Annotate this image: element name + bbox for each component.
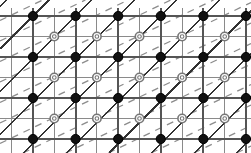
filled-lattice-node bbox=[156, 93, 165, 102]
filled-lattice-node bbox=[28, 52, 37, 61]
filled-lattice-node bbox=[71, 134, 80, 143]
filled-lattice-node bbox=[156, 52, 165, 61]
open-lattice-node bbox=[135, 73, 143, 81]
filled-lattice-node bbox=[241, 134, 250, 143]
open-lattice-node bbox=[93, 32, 101, 40]
open-lattice-node bbox=[178, 32, 186, 40]
open-lattice-node bbox=[50, 73, 58, 81]
open-lattice-node bbox=[93, 114, 101, 122]
open-lattice-node bbox=[178, 114, 186, 122]
filled-lattice-node bbox=[156, 134, 165, 143]
filled-lattice-node bbox=[114, 93, 123, 102]
filled-lattice-node bbox=[71, 52, 80, 61]
open-lattice-node bbox=[50, 32, 58, 40]
filled-lattice-node bbox=[241, 11, 250, 20]
open-lattice-node bbox=[221, 32, 229, 40]
lattice-figure bbox=[0, 0, 251, 153]
filled-lattice-node bbox=[114, 11, 123, 20]
filled-lattice-node bbox=[241, 52, 250, 61]
filled-lattice-node bbox=[199, 52, 208, 61]
filled-lattice-node bbox=[28, 134, 37, 143]
filled-lattice-node bbox=[28, 11, 37, 20]
lattice-canvas bbox=[0, 0, 251, 153]
filled-lattice-node bbox=[114, 52, 123, 61]
filled-lattice-node bbox=[199, 134, 208, 143]
filled-lattice-node bbox=[199, 11, 208, 20]
filled-lattice-node bbox=[156, 11, 165, 20]
open-lattice-node bbox=[221, 73, 229, 81]
open-lattice-node bbox=[135, 114, 143, 122]
filled-lattice-node bbox=[71, 93, 80, 102]
open-lattice-node bbox=[221, 114, 229, 122]
filled-lattice-node bbox=[114, 134, 123, 143]
open-lattice-node bbox=[93, 73, 101, 81]
open-lattice-node bbox=[135, 32, 143, 40]
filled-lattice-node bbox=[28, 93, 37, 102]
open-lattice-node bbox=[50, 114, 58, 122]
open-lattice-node bbox=[178, 73, 186, 81]
filled-lattice-node bbox=[241, 93, 250, 102]
filled-lattice-node bbox=[199, 93, 208, 102]
filled-lattice-node bbox=[71, 11, 80, 20]
